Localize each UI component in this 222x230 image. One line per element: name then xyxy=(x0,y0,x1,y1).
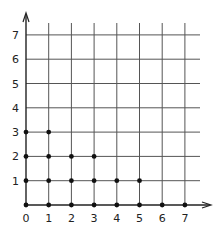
data-point xyxy=(24,178,29,183)
x-tick-labels: 01234567 xyxy=(23,212,189,225)
y-tick-label: 6 xyxy=(12,53,19,66)
data-point xyxy=(46,130,51,135)
x-tick-label: 6 xyxy=(159,212,166,225)
data-points xyxy=(24,130,188,208)
data-point xyxy=(46,203,51,208)
data-point xyxy=(137,203,142,208)
data-point xyxy=(24,130,29,135)
x-tick-label: 5 xyxy=(136,212,143,225)
data-point xyxy=(92,178,97,183)
data-point xyxy=(183,203,188,208)
y-tick-label: 5 xyxy=(12,78,19,91)
y-tick-label: 7 xyxy=(12,29,19,42)
y-tick-label: 3 xyxy=(12,126,19,139)
y-tick-label: 2 xyxy=(12,150,19,163)
data-point xyxy=(69,154,74,159)
x-tick-label: 4 xyxy=(113,212,120,225)
x-tick-label: 3 xyxy=(91,212,98,225)
y-tick-label: 1 xyxy=(12,175,19,188)
data-point xyxy=(24,203,29,208)
x-tick-label: 1 xyxy=(45,212,52,225)
data-point xyxy=(114,178,119,183)
y-tick-label: 4 xyxy=(12,102,19,115)
data-point xyxy=(92,154,97,159)
x-tick-label: 2 xyxy=(68,212,75,225)
grid-lines xyxy=(26,23,200,205)
lattice-point-chart: 01234567 1234567 xyxy=(0,0,222,230)
data-point xyxy=(160,203,165,208)
data-point xyxy=(69,203,74,208)
data-point xyxy=(137,178,142,183)
y-tick-labels: 1234567 xyxy=(12,29,19,188)
data-point xyxy=(46,178,51,183)
x-tick-label: 0 xyxy=(23,212,30,225)
data-point xyxy=(114,203,119,208)
data-point xyxy=(92,203,97,208)
data-point xyxy=(24,154,29,159)
data-point xyxy=(46,154,51,159)
x-tick-label: 7 xyxy=(181,212,188,225)
chart-canvas: 01234567 1234567 xyxy=(0,0,222,230)
data-point xyxy=(69,178,74,183)
